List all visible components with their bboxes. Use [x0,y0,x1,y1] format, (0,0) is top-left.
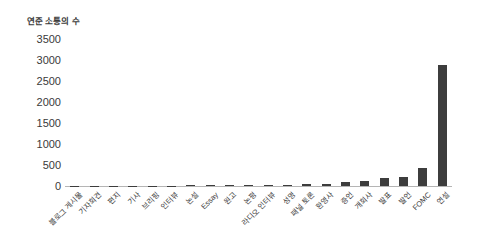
x-axis-tick-label: 환영사 [315,191,336,212]
bar [225,185,234,186]
y-axis-tick-label: 0 [0,181,61,192]
bar [341,182,350,186]
bar [438,65,447,186]
bar [302,184,311,186]
bar [418,168,427,186]
chart-title: 연준 소통의 수 [27,14,80,26]
x-axis-tick-label: 원고 [224,191,240,207]
y-axis-tick-label: 3500 [0,34,61,45]
bar [360,181,369,186]
x-axis-tick-label: 발표 [378,191,394,207]
bar [380,178,389,186]
y-axis-tick-label: 500 [0,160,61,171]
bar [283,185,292,186]
x-axis-tick-label: 연설 [436,191,452,207]
x-axis-tick-label: 개회사 [354,191,375,212]
x-axis-tick-label: FOMC [411,191,432,212]
bar-chart: 연준 소통의 수 0500100015002000250030003500 블로… [0,0,478,250]
y-axis-tick-label: 2500 [0,76,61,87]
y-axis-tick-label: 1500 [0,118,61,129]
bar [399,177,408,186]
x-axis-tick-label: 편지 [107,191,123,207]
bar [244,185,253,186]
bar [186,185,195,186]
bar [264,185,273,186]
y-axis-tick-label: 3000 [0,55,61,66]
x-axis-line [65,186,452,187]
y-axis-tick-label: 2000 [0,97,61,108]
x-axis-tick-label: Essay [200,191,220,211]
x-axis-tick-label: 인터뷰 [161,191,182,212]
y-axis-tick-label: 1000 [0,139,61,150]
bar [322,184,331,186]
bar [206,185,215,186]
x-axis-tick-label: 브리핑 [141,191,162,212]
